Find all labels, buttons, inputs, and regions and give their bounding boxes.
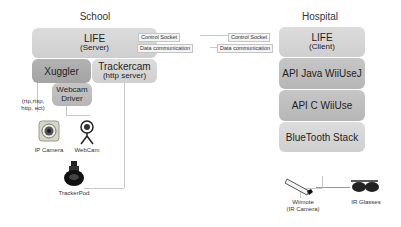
control-socket-right-tag: Control Socket — [228, 33, 270, 42]
wiimote-line1: Wiimote — [283, 199, 323, 206]
ip-camera-label: IP Camera — [28, 147, 70, 154]
api-c-box: API C WiiUse — [279, 90, 365, 121]
trackercam-box: Trackercam (http server) — [92, 59, 157, 83]
xuggler-label: Xuggler — [44, 66, 78, 77]
api-java-box: API Java WiiUseJ — [279, 58, 365, 89]
trackercam-role: (http server) — [103, 72, 146, 81]
protocols-line2: http, ect) — [16, 105, 50, 112]
life-client-role: (Client) — [309, 43, 335, 52]
life-client-box: LIFE (Client) — [279, 27, 365, 57]
protocols-label: (rtp,rtsp, http, ect) — [16, 98, 50, 112]
connector-driver-webcam-h — [66, 115, 90, 116]
trackerpod-icon — [62, 160, 86, 188]
life-server-role: (Server) — [80, 44, 109, 53]
connector-trackercam-trackerpod — [124, 80, 125, 188]
data-communication-right-tag: Data communication — [217, 44, 273, 53]
ir-glasses-icon — [350, 178, 380, 194]
bluetooth-stack-box: BlueTooth Stack — [279, 122, 365, 152]
control-socket-left-tag: Control Socket — [138, 33, 180, 42]
connector-glasses-wiimote — [316, 187, 350, 188]
trackerpod-label: TrackerPod — [52, 190, 96, 197]
webcam-label: WebCam — [70, 147, 104, 154]
api-java-label: API Java WiiUseJ — [282, 68, 361, 79]
wiimote-label: Wiimote (IR Camera) — [283, 199, 323, 213]
connector-control-socket — [200, 35, 230, 36]
api-c-label: API C WiiUse — [292, 100, 353, 111]
webcam-icon — [78, 119, 96, 145]
ip-camera-icon — [38, 120, 60, 142]
wiimote-icon — [285, 175, 317, 197]
school-title: School — [60, 11, 130, 22]
wiimote-line2: (IR Camera) — [283, 206, 323, 213]
xuggler-box: Xuggler — [32, 59, 91, 83]
webcam-driver-box: Webcam Driver — [52, 83, 92, 106]
ir-glasses-label: IR Glasses — [345, 199, 387, 206]
connector-trackerpod-h — [84, 188, 124, 189]
bluetooth-stack-label: BlueTooth Stack — [286, 132, 358, 143]
data-communication-left-tag: Data communication — [137, 44, 193, 53]
webcam-driver-line2: Driver — [61, 95, 82, 104]
hospital-title: Hospital — [285, 11, 355, 22]
protocols-line1: (rtp,rtsp, — [16, 98, 50, 105]
